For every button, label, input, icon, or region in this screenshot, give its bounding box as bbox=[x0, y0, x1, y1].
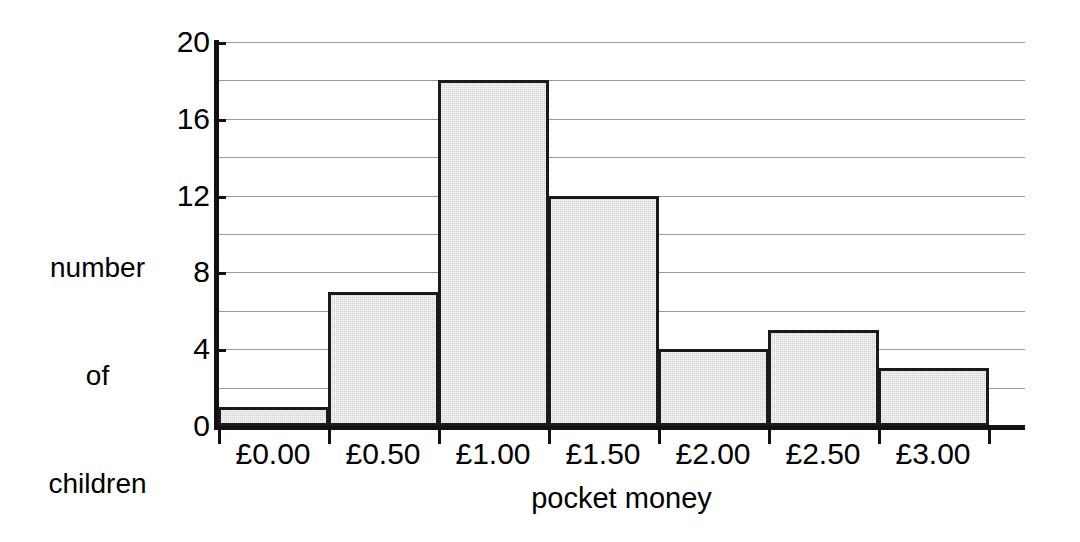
x-axis-tick-label: £2.50 bbox=[768, 437, 878, 471]
bar bbox=[548, 196, 659, 426]
x-axis-tick-label: £0.50 bbox=[328, 437, 438, 471]
bars-group bbox=[218, 42, 988, 426]
y-axis-tick-mark bbox=[214, 196, 226, 199]
y-axis-tick-label: 12 bbox=[150, 181, 210, 211]
x-axis-tick-label: £1.00 bbox=[438, 437, 548, 471]
bar bbox=[328, 292, 439, 426]
pocket-money-histogram: number of children 048121620 £0.00£0.50£… bbox=[0, 0, 1080, 542]
bar bbox=[658, 349, 769, 426]
x-axis-tick-label: £3.00 bbox=[878, 437, 988, 471]
x-axis-tick-label: £0.00 bbox=[218, 437, 328, 471]
bar bbox=[218, 407, 329, 426]
y-axis-line bbox=[214, 40, 219, 430]
y-axis-tick-label: 4 bbox=[150, 334, 210, 364]
y-axis-tick-mark bbox=[214, 349, 226, 352]
x-axis-tick-label: £2.00 bbox=[658, 437, 768, 471]
y-axis-tick-label: 20 bbox=[150, 27, 210, 57]
bar bbox=[878, 368, 989, 426]
y-axis-tick-mark bbox=[214, 119, 226, 122]
y-axis-tick-mark bbox=[214, 272, 226, 275]
bar bbox=[768, 330, 879, 426]
y-axis-tick-label: 8 bbox=[150, 257, 210, 287]
x-axis-tick-label: £1.50 bbox=[548, 437, 658, 471]
y-axis-ticks: 048121620 bbox=[130, 0, 210, 542]
y-axis-tick-mark bbox=[214, 42, 226, 45]
y-axis-tick-label: 0 bbox=[150, 411, 210, 441]
bar bbox=[438, 80, 549, 426]
plot-area bbox=[218, 42, 1025, 426]
y-axis-tick-label: 16 bbox=[150, 104, 210, 134]
x-axis-tick-mark bbox=[988, 428, 991, 444]
x-axis-title: pocket money bbox=[218, 481, 1025, 515]
